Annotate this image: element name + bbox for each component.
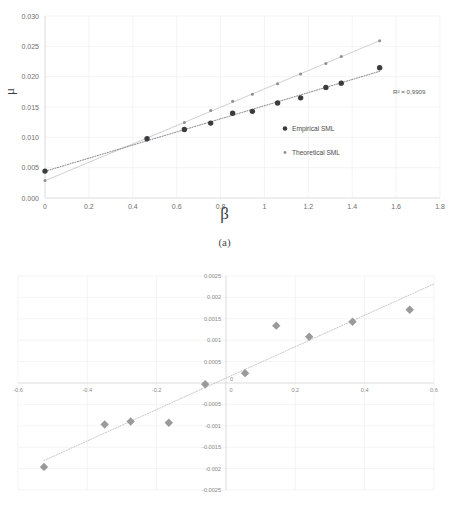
datapoint-empirical xyxy=(208,120,213,125)
datapoint-empirical xyxy=(339,80,344,85)
y-tick-label: 0.0025 xyxy=(204,273,221,279)
datapoint-theoretical xyxy=(209,109,212,112)
panel-a-caption: (a) xyxy=(0,236,449,248)
datapoint-theoretical xyxy=(324,62,327,65)
y-tick-label: 0.0015 xyxy=(204,316,221,322)
datapoint-theoretical xyxy=(299,72,302,75)
regression-trendline-b xyxy=(44,284,434,461)
x-tick-label: 0.6 xyxy=(430,387,438,393)
y-tick-label: 0.0005 xyxy=(204,359,221,365)
datapoint-b xyxy=(241,369,249,377)
y-tick-label: -0.0025 xyxy=(202,487,221,493)
legend-a: Empirical SMLTheoretical SML xyxy=(283,125,341,156)
y-tick-label: 0.000 xyxy=(21,195,39,202)
datapoint-theoretical xyxy=(183,121,186,124)
r2-annotation-label: R² = 0,9909 xyxy=(393,88,426,95)
y-tick-label: 0.010 xyxy=(21,134,39,141)
trendline-b xyxy=(44,284,434,461)
axes-b xyxy=(18,276,434,490)
datapoint-empirical xyxy=(298,95,303,100)
y-tick-label: -0.002 xyxy=(205,466,221,472)
y-tick-label: 0.020 xyxy=(21,73,39,80)
datapoint-b xyxy=(305,333,313,341)
datapoint-theoretical xyxy=(251,93,254,96)
x-tick-label: 0.2 xyxy=(291,387,299,393)
y-tick-label: 0.015 xyxy=(21,104,39,111)
figure-panel-a: 0.0000.0050.0100.0150.0200.0250.030 00.2… xyxy=(0,0,449,262)
datapoint-theoretical xyxy=(276,82,279,85)
trendline-theoretical xyxy=(45,41,380,181)
legend-label-empirical: Empirical SML xyxy=(292,125,335,133)
y-tick-label: -0.0005 xyxy=(202,401,221,407)
annotation-r2: R² = 0,9909 xyxy=(393,88,426,95)
plot-area-b: -0.0025-0.002-0.0015-0.001-0.000500.0005… xyxy=(0,262,449,526)
legend-label-theoretical: Theoretical SML xyxy=(292,149,340,156)
x-tick-label: -0.6 xyxy=(13,387,23,393)
y-tick-label: 0 xyxy=(230,376,233,382)
y-tick-label: 0.030 xyxy=(21,13,39,20)
datapoint-theoretical xyxy=(231,100,234,103)
x-tick-label: -0.2 xyxy=(152,387,162,393)
datapoint-empirical xyxy=(182,127,187,132)
y-tick-label: 0.002 xyxy=(207,294,221,300)
x-tick-label: 0 xyxy=(229,387,232,393)
y-tick-label: 0.005 xyxy=(21,164,39,171)
y-tick-label: 0.001 xyxy=(207,337,221,343)
datapoints-b xyxy=(40,306,414,471)
x-axis-title-a: β xyxy=(0,204,449,224)
y-tick-label: -0.001 xyxy=(205,423,221,429)
datapoint-b xyxy=(201,380,209,388)
y-tick-label: -0.0015 xyxy=(202,444,221,450)
x-tick-label: 0.4 xyxy=(361,387,369,393)
datapoint-empirical xyxy=(230,111,235,116)
y-tick-labels-a: 0.0000.0050.0100.0150.0200.0250.030 xyxy=(21,13,39,202)
legend-marker-theoretical xyxy=(284,151,287,154)
datapoint-empirical xyxy=(42,168,47,173)
datapoint-b xyxy=(272,321,280,329)
datapoint-empirical xyxy=(323,85,328,90)
datapoint-theoretical xyxy=(378,39,381,42)
figure-panel-b: -0.0025-0.002-0.0015-0.001-0.000500.0005… xyxy=(0,262,449,526)
theoretical-trendline xyxy=(45,41,380,181)
y-axis-title-a: μ xyxy=(2,88,18,95)
datapoint-theoretical xyxy=(44,179,47,182)
datapoint-b xyxy=(406,306,414,314)
datapoint-b xyxy=(126,417,134,425)
datapoint-empirical xyxy=(275,100,280,105)
datapoints-empirical xyxy=(42,65,382,174)
datapoint-b xyxy=(40,463,48,471)
legend-marker-empirical xyxy=(283,126,288,131)
x-tick-labels-b: -0.6-0.4-0.200.20.40.6 xyxy=(13,387,438,393)
chart-svg-b: -0.0025-0.002-0.0015-0.001-0.000500.0005… xyxy=(0,262,449,526)
gridlines-a xyxy=(45,16,440,198)
x-tick-label: -0.4 xyxy=(83,387,93,393)
y-tick-label: 0.025 xyxy=(21,43,39,50)
datapoint-theoretical xyxy=(340,55,343,58)
datapoint-empirical xyxy=(250,109,255,114)
datapoint-empirical xyxy=(144,136,149,141)
datapoint-b xyxy=(100,420,108,428)
datapoint-empirical xyxy=(377,65,382,70)
